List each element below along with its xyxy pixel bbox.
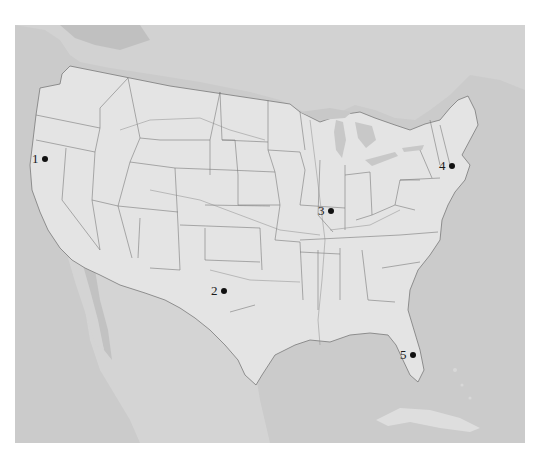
marker-dot-icon [328, 208, 334, 214]
marker-label: 4 [439, 159, 446, 172]
marker-label: 5 [400, 348, 407, 361]
site-marker-4: 4 [439, 159, 455, 172]
marker-dot-icon [42, 156, 48, 162]
us-map [15, 25, 525, 443]
map-frame: 1 2 3 4 5 [15, 25, 525, 443]
site-marker-5: 5 [400, 348, 416, 361]
marker-dot-icon [221, 288, 227, 294]
marker-label: 1 [32, 152, 39, 165]
marker-dot-icon [410, 352, 416, 358]
site-marker-3: 3 [318, 204, 334, 217]
marker-label: 3 [318, 204, 325, 217]
marker-dot-icon [449, 163, 455, 169]
site-marker-2: 2 [211, 284, 227, 297]
marker-label: 2 [211, 284, 218, 297]
site-marker-1: 1 [32, 152, 48, 165]
